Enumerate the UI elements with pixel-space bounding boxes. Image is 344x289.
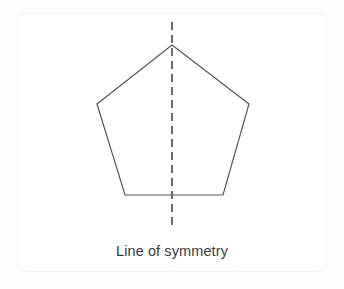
- caption-label: Line of symmetry: [0, 242, 344, 260]
